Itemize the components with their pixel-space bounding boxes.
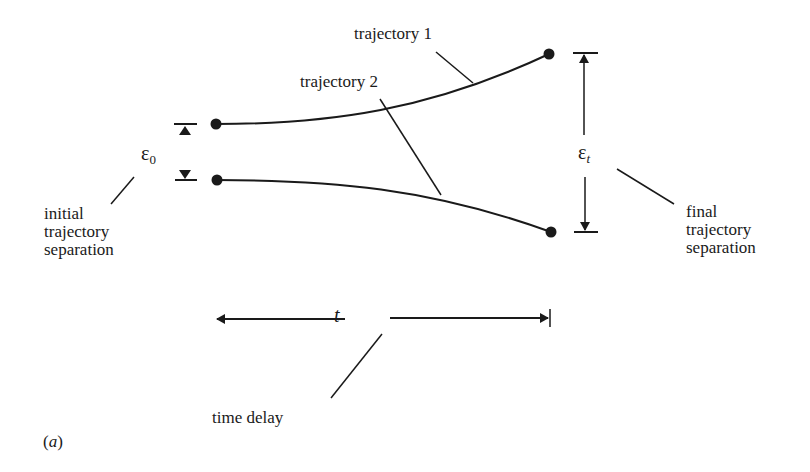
time-delay-symbol: t — [334, 306, 340, 325]
initial-separation-symbol: ε0 — [141, 144, 156, 165]
trajectory-2-leader — [380, 99, 441, 195]
trajectory-2-start-point — [212, 175, 223, 186]
trajectory-1-end-point — [544, 49, 555, 60]
time-delay-caption: time delay — [212, 408, 283, 427]
trajectory-2-curve — [217, 180, 551, 232]
trajectory-2-end-point — [546, 227, 557, 238]
time-delay-leader — [331, 334, 382, 398]
caption-line: separation — [686, 238, 756, 257]
caption-line: trajectory — [44, 222, 109, 241]
trajectory-1-label: trajectory 1 — [354, 24, 432, 43]
trajectory-2-label: trajectory 2 — [300, 72, 378, 91]
trajectory-divergence-diagram: trajectory 1 trajectory 2 ε0 initial tra… — [0, 0, 810, 472]
caption-line: separation — [44, 240, 114, 259]
initial-separation-marker — [174, 124, 197, 180]
final-separation-leader — [617, 169, 674, 204]
initial-separation-leader — [111, 177, 134, 204]
caption-line: final — [686, 202, 717, 221]
trajectory-1-leader — [436, 52, 473, 83]
caption-line: trajectory — [686, 220, 751, 239]
final-separation-symbol: εt — [578, 143, 590, 164]
caption-line: initial — [44, 204, 84, 223]
panel-label: (a) — [43, 432, 63, 451]
time-delay-arrow — [217, 309, 550, 327]
trajectory-1-start-point — [211, 119, 222, 130]
trajectory-1-curve — [216, 54, 549, 124]
